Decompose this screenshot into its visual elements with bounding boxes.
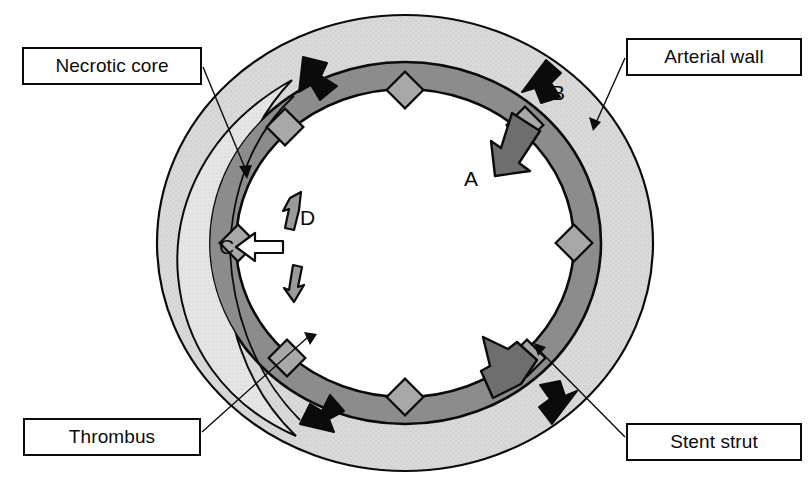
callout-thrombus-label: Thrombus xyxy=(69,427,155,447)
marker-label-c: C xyxy=(219,236,234,257)
callout-arterial-wall[interactable]: Arterial wall xyxy=(626,38,802,76)
stented-artery-diagram: Necrotic core Arterial wall Thrombus Ste… xyxy=(0,0,809,489)
marker-label-b: B xyxy=(551,82,565,103)
marker-label-d: D xyxy=(300,207,315,228)
callout-stent-strut[interactable]: Stent strut xyxy=(626,423,802,461)
callout-stent-strut-label: Stent strut xyxy=(670,432,758,452)
callout-necrotic-core-label: Necrotic core xyxy=(55,56,168,76)
marker-label-a: A xyxy=(464,168,478,189)
callout-necrotic-core[interactable]: Necrotic core xyxy=(22,47,202,85)
callout-thrombus[interactable]: Thrombus xyxy=(23,418,201,456)
callout-arterial-wall-label: Arterial wall xyxy=(664,47,764,67)
